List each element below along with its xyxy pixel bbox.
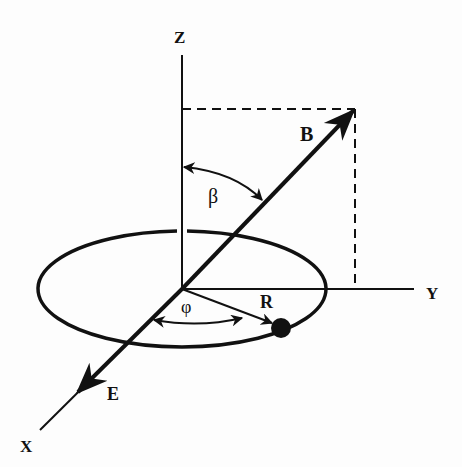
phi-angle-label: φ [181, 297, 191, 317]
beta-angle-label: β [208, 185, 218, 208]
y-axis-label: Y [426, 284, 438, 303]
b-vector-label: B [300, 123, 313, 145]
phi-angle-arc [154, 318, 242, 324]
particle [271, 318, 291, 338]
x-axis-label: X [20, 437, 33, 456]
beta-angle-arc [184, 167, 262, 200]
r-vector-label: R [260, 292, 274, 312]
diagram-svg: Z Y X B E R β φ [0, 0, 462, 467]
diagram-canvas: Z Y X B E R β φ [0, 0, 462, 467]
e-vector [78, 289, 182, 392]
r-vector [182, 289, 272, 323]
z-axis-label: Z [174, 28, 185, 47]
e-vector-label: E [107, 384, 119, 404]
